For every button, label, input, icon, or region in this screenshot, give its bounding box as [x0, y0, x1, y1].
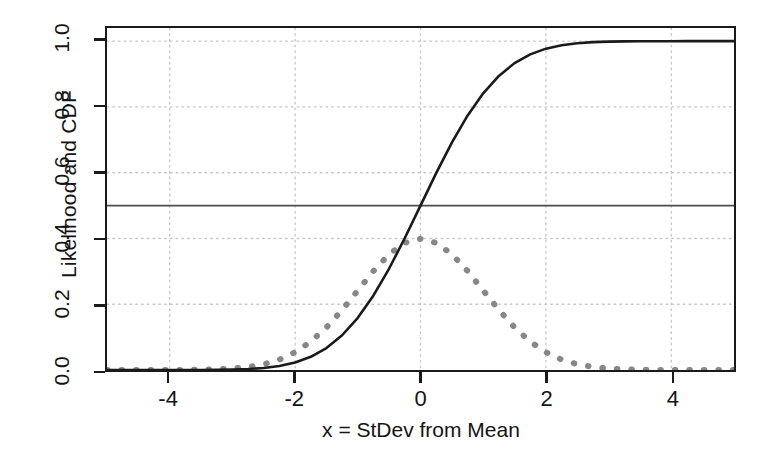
x-tick-label: -2 [269, 386, 319, 412]
y-tick-label: 0.0 [50, 341, 74, 401]
y-tick-label: 0.8 [50, 75, 74, 135]
x-tick-mark [545, 372, 548, 383]
x-tick-label: 2 [522, 386, 572, 412]
y-tick-mark [94, 171, 105, 174]
x-tick-mark [167, 372, 170, 383]
chart-figure: Likelihood and CDF x = StDev from Mean -… [0, 0, 771, 456]
gridlines [107, 28, 734, 370]
x-axis-title: x = StDev from Mean [105, 418, 737, 442]
y-tick-mark [94, 238, 105, 241]
plot-canvas [107, 28, 734, 370]
y-tick-mark [94, 371, 105, 374]
plot-area [105, 26, 736, 372]
y-tick-mark [94, 105, 105, 108]
y-tick-mark [94, 38, 105, 41]
y-tick-label: 0.6 [50, 141, 74, 201]
x-tick-label: 4 [648, 386, 698, 412]
y-tick-mark [94, 304, 105, 307]
x-tick-label: 0 [396, 386, 446, 412]
x-tick-mark [672, 372, 675, 383]
y-tick-label: 1.0 [50, 8, 74, 68]
y-tick-label: 0.2 [50, 274, 74, 334]
x-tick-label: -4 [143, 386, 193, 412]
y-tick-label: 0.4 [50, 208, 74, 268]
x-tick-mark [293, 372, 296, 383]
x-tick-mark [419, 372, 422, 383]
